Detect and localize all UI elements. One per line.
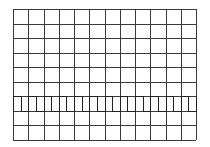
waveform-display <box>0 0 210 147</box>
